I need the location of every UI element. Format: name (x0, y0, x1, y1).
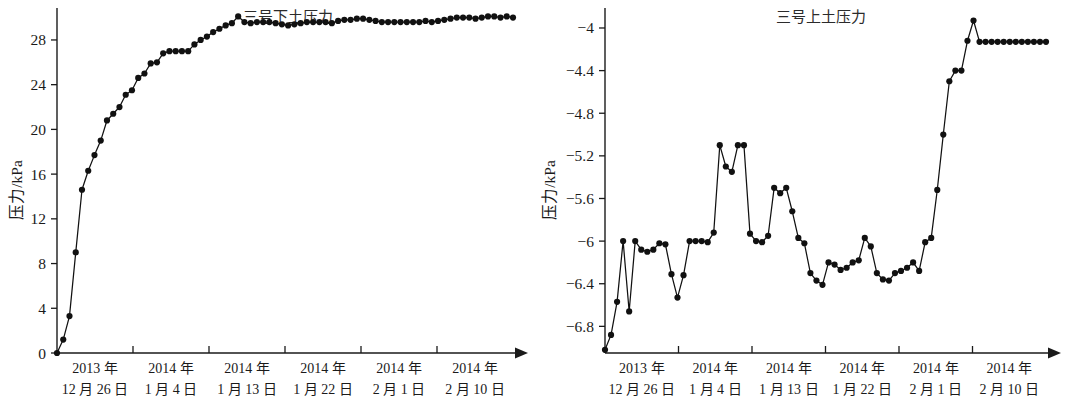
x-tick-label: 12 月 26 日 (62, 382, 129, 397)
y-tick-label: 0 (38, 345, 46, 362)
data-point (391, 19, 397, 25)
data-point (285, 22, 291, 28)
series-markers-right (602, 17, 1049, 352)
data-point (626, 308, 632, 314)
data-point (831, 261, 837, 267)
data-point (1019, 39, 1025, 45)
data-point (741, 142, 747, 148)
y-tick-label: 16 (31, 166, 47, 183)
data-point (868, 243, 874, 249)
y-tick-label: 8 (38, 255, 46, 272)
data-point (989, 39, 995, 45)
data-point (735, 142, 741, 148)
data-point (783, 185, 789, 191)
data-point (795, 235, 801, 241)
data-point (323, 19, 329, 25)
y-tick-label: −4 (578, 19, 595, 36)
data-point (705, 239, 711, 245)
data-point (510, 14, 516, 20)
chart-svg-left: 三号下土压力 0481216202428 2013 年12 月 26 日2014… (0, 0, 534, 408)
data-point (892, 270, 898, 276)
data-point (397, 19, 403, 25)
data-point (141, 70, 147, 76)
data-point (614, 299, 620, 305)
data-point (429, 19, 435, 25)
x-tick-label: 2014 年 (840, 361, 886, 376)
data-point (777, 190, 783, 196)
x-tick-label: 1 月 22 日 (833, 382, 893, 397)
x-tick-group-right (679, 346, 973, 353)
y-tick-label: −5.6 (566, 190, 594, 207)
data-point (813, 277, 819, 283)
figure-root: 三号下土压力 0481216202428 2013 年12 月 26 日2014… (0, 0, 1067, 408)
data-point (441, 17, 447, 23)
x-tick-label: 2014 年 (913, 361, 959, 376)
x-tick-label: 2014 年 (224, 361, 270, 376)
data-point (729, 169, 735, 175)
data-point (98, 137, 104, 143)
data-point (970, 17, 976, 23)
data-point (447, 16, 453, 22)
data-point (1013, 39, 1019, 45)
data-point (668, 271, 674, 277)
data-point (491, 13, 497, 19)
y-tick-group-right: −6.8−6.4−6−5.6−5.2−4.8−4.4−4 (566, 19, 605, 334)
x-tick-label: 2 月 1 日 (910, 382, 963, 397)
series-markers-left (54, 13, 516, 356)
data-point (693, 238, 699, 244)
data-point (241, 19, 247, 25)
data-point (191, 41, 197, 47)
data-point (765, 233, 771, 239)
x-tick-label: 2 月 10 日 (445, 382, 505, 397)
y-tick-label: 24 (31, 76, 47, 93)
data-point (874, 270, 880, 276)
data-point (379, 19, 385, 25)
data-point (91, 152, 97, 158)
data-point (372, 18, 378, 24)
x-tick-label: 2014 年 (693, 361, 739, 376)
data-point (916, 268, 922, 274)
data-point (686, 238, 692, 244)
data-point (862, 235, 868, 241)
data-point (347, 17, 353, 23)
data-point (329, 20, 335, 26)
data-point (958, 68, 964, 74)
data-point (266, 19, 272, 25)
chart-title-right: 三号上土压力 (776, 8, 866, 25)
data-point (1031, 39, 1037, 45)
data-point (210, 29, 216, 35)
data-point (680, 272, 686, 278)
data-point (910, 259, 916, 265)
x-tick-label: 1 月 4 日 (689, 382, 742, 397)
data-point (656, 240, 662, 246)
data-point (385, 19, 391, 25)
data-point (360, 16, 366, 22)
data-point (1007, 39, 1013, 45)
data-point (801, 240, 807, 246)
x-tick-label: 1 月 22 日 (293, 382, 353, 397)
data-point (66, 313, 72, 319)
data-point (880, 276, 886, 282)
data-point (644, 249, 650, 255)
y-tick-label: 28 (31, 31, 47, 48)
x-tick-label-group-right: 2013 年12 月 26 日2014 年1 月 4 日2014 年1 月 13… (609, 361, 1040, 397)
x-tick-label: 12 月 26 日 (609, 382, 676, 397)
data-point (129, 87, 135, 93)
data-point (116, 104, 122, 110)
data-point (60, 336, 66, 342)
x-tick-label: 2014 年 (987, 361, 1033, 376)
data-point (674, 294, 680, 300)
data-point (404, 19, 410, 25)
x-tick-label: 2014 年 (452, 361, 498, 376)
data-point (711, 229, 717, 235)
data-point (460, 14, 466, 20)
data-point (179, 48, 185, 54)
y-tick-label: −4.8 (566, 105, 594, 122)
x-tick-label: 2014 年 (300, 361, 346, 376)
data-point (273, 20, 279, 26)
data-point (316, 19, 322, 25)
data-point (1025, 39, 1031, 45)
data-point (759, 239, 765, 245)
x-axis-arrow-left (515, 348, 528, 359)
data-point (248, 20, 254, 26)
